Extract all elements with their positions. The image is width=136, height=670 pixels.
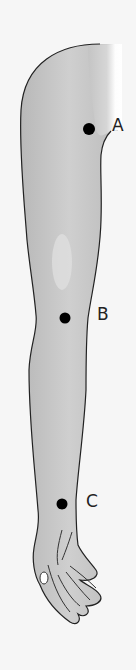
elbow-highlight — [52, 234, 72, 290]
thumbnail — [40, 572, 48, 584]
point-a-label: A — [112, 117, 124, 134]
point-b-label: B — [97, 306, 109, 323]
arm-diagram — [0, 0, 136, 670]
point-c-marker — [57, 499, 68, 510]
point-c-label: C — [86, 493, 98, 510]
point-a-marker — [83, 123, 95, 135]
point-b-marker — [60, 313, 71, 324]
